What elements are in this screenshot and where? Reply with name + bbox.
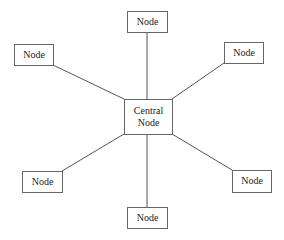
node-top-left: Node (15, 45, 54, 66)
node-bottom: Node (128, 208, 168, 229)
node-bottom-right: Node (233, 171, 272, 193)
star-diagram: Central Node Node Node Node Node Node No… (0, 0, 284, 240)
node-label: Node (241, 175, 263, 186)
central-node-label-line1: Central (134, 105, 164, 116)
node-top-right: Node (225, 43, 264, 64)
edge-bottom-right (172, 134, 232, 170)
edge-bottom-left (62, 134, 124, 171)
node-label: Node (137, 16, 159, 27)
central-node-label-line2: Node (138, 117, 160, 128)
node-top: Node (128, 12, 168, 33)
central-node: Central Node (125, 100, 173, 135)
node-label: Node (23, 49, 45, 60)
node-label: Node (32, 176, 54, 187)
node-bottom-left: Node (23, 172, 63, 193)
edge-top-left (53, 65, 124, 99)
node-label: Node (137, 212, 159, 223)
node-label: Node (233, 47, 255, 58)
edge-top-right (172, 63, 224, 99)
